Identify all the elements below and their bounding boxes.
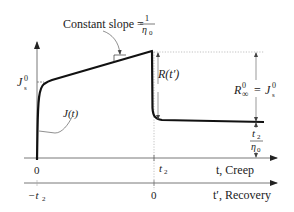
offset-numerator-sub: 2 — [257, 133, 261, 141]
rt-label: R(t′) — [157, 67, 179, 81]
slope-denominator: η — [142, 24, 147, 35]
offset-denominator-sub: 0 — [257, 146, 261, 154]
slope-denominator-sub: 0 — [149, 29, 153, 37]
recovery-axis-label: t′, Recovery — [213, 188, 271, 202]
js0-label: J — [17, 75, 23, 89]
creep-origin-label: 0 — [34, 164, 40, 176]
creep-t2-sub: 2 — [164, 168, 168, 176]
creep-recovery-diagram: Constant slope = 1 η 0 J 0 s J(t) R(t′) … — [0, 0, 294, 212]
recovery-origin-sub: 2 — [42, 195, 46, 203]
rinf-rhs-sup: 0 — [272, 81, 276, 90]
recovery-zero-label: 0 — [151, 189, 157, 201]
rinf-rhs: J — [265, 83, 271, 97]
js0-sup: 0 — [24, 74, 28, 83]
jt-leader — [39, 117, 72, 133]
creep-axis-label: t, Creep — [216, 163, 254, 177]
creep-t2-label: t — [159, 162, 163, 174]
rinf-label: R — [233, 83, 242, 97]
offset-numerator: t — [252, 127, 256, 139]
slope-label: Constant slope = — [63, 17, 144, 31]
recovery-origin-label: −t — [28, 189, 39, 201]
rinf-eq: = — [254, 83, 261, 97]
compliance-curve — [37, 51, 264, 160]
rinf-rhs-sub: s — [272, 91, 275, 99]
rinf-sub: ∞ — [242, 89, 248, 99]
offset-denominator: η — [251, 141, 256, 152]
jt-label: J(t) — [63, 107, 79, 120]
js0-sub: s — [24, 84, 27, 92]
slope-leader — [103, 31, 120, 54]
slope-numerator: 1 — [145, 13, 150, 23]
